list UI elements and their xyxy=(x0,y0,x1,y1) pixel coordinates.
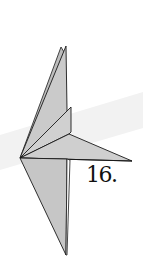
fold-illustration xyxy=(0,0,143,259)
lower-flap xyxy=(20,158,67,255)
lower-flap-edge xyxy=(66,159,70,255)
origami-diagram: 16. xyxy=(0,0,143,259)
step-number-label: 16. xyxy=(86,164,117,186)
